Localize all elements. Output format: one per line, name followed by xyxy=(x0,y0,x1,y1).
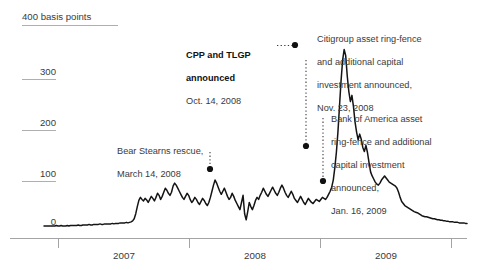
annotation-cpp-tlgp-line1: CPP and TLGP xyxy=(186,50,278,61)
x-axis-label-2009: 2009 xyxy=(356,250,416,261)
y-gridlines xyxy=(22,26,118,182)
annotation-bofa-line2: ring-fence and additional xyxy=(331,137,477,148)
annotation-bofa-line5: Jan. 16, 2009 xyxy=(331,206,477,217)
annotation-bank-of-america: Bank of America asset ring-fence and add… xyxy=(331,103,477,228)
chart-container: 400 basis points 300 200 100 0 2007 2008… xyxy=(0,0,477,270)
annotation-bofa-line1: Bank of America asset xyxy=(331,114,477,125)
y-axis-label-200: 200 xyxy=(20,117,56,128)
marker-cpp-tlgp[interactable] xyxy=(292,42,298,48)
annotation-bear-stearns-line2: March 14, 2008 xyxy=(117,169,237,180)
y-axis-label-0: 0 xyxy=(20,216,56,227)
annotation-cpp-tlgp: CPP and TLGP announced Oct. 14, 2008 xyxy=(186,39,278,119)
y-axis-label-100: 100 xyxy=(20,168,56,179)
marker-citigroup[interactable] xyxy=(303,143,309,149)
annotation-bofa-line4: announced, xyxy=(331,183,477,194)
x-axis-label-2007: 2007 xyxy=(94,250,154,261)
annotation-citigroup-line1: Citigroup asset ring-fence xyxy=(317,34,467,45)
annotation-bofa-line3: capital investment xyxy=(331,160,477,171)
y-axis-label-300: 300 xyxy=(20,66,56,77)
x-axis-ticks xyxy=(59,239,452,249)
annotation-bear-stearns: Bear Stearns rescue, March 14, 2008 xyxy=(117,135,237,192)
x-axis-label-2008: 2008 xyxy=(225,250,285,261)
annotation-cpp-tlgp-line3: Oct. 14, 2008 xyxy=(186,96,278,107)
y-axis-unit-label: 400 basis points xyxy=(22,11,91,22)
annotation-citigroup-line2: and additional capital xyxy=(317,57,467,68)
marker-bank-of-america[interactable] xyxy=(320,178,326,184)
annotation-bear-stearns-line1: Bear Stearns rescue, xyxy=(117,146,237,157)
annotation-cpp-tlgp-line2: announced xyxy=(186,73,278,84)
annotation-citigroup-line3: investment announced, xyxy=(317,80,467,91)
